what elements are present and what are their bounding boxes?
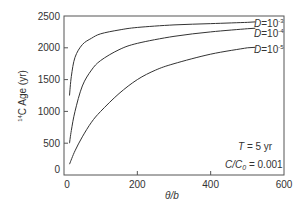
series-label-d5: D=10-5: [254, 44, 284, 55]
x-tick-label: 400: [202, 179, 219, 190]
curve-d104: [70, 28, 256, 143]
y-tick-label: 0: [54, 164, 60, 175]
data-curves: [70, 22, 256, 164]
chart: 0200400600 05001000150020002500 D=10-3 D…: [0, 0, 306, 204]
curve-d103: [70, 22, 256, 96]
x-axis-label: θ/b: [165, 190, 179, 201]
y-axis-ticks: 05001000150020002500: [38, 11, 68, 176]
x-tick-label: 200: [129, 179, 146, 190]
y-axis-label: 14C Age (yr): [17, 70, 28, 122]
y-tick-label: 1000: [38, 106, 61, 117]
x-tick-label: 0: [64, 179, 70, 190]
y-tick-label: 500: [43, 138, 60, 149]
x-axis-ticks: 0200400600: [64, 171, 293, 190]
series-label-d4: D=10-4: [254, 28, 284, 39]
x-tick-label: 600: [276, 179, 293, 190]
annotation-t: T = 5 yr: [238, 141, 273, 152]
y-tick-label: 1500: [38, 74, 61, 85]
curve-d105: [70, 47, 256, 164]
y-tick-label: 2500: [38, 11, 61, 22]
y-tick-label: 2000: [38, 42, 61, 53]
annotation-c-ratio: C/C0 = 0.001: [225, 159, 283, 171]
